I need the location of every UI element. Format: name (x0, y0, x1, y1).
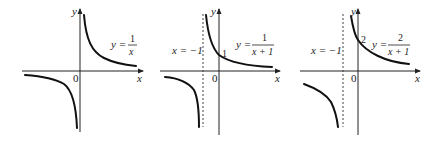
svg-text:x + 1: x + 1 (251, 46, 273, 57)
asymptote-label: x = −1 (171, 44, 203, 56)
curve-lower-branch (165, 77, 199, 127)
svg-text:y =: y = (235, 38, 251, 50)
svg-text:1: 1 (130, 33, 135, 44)
reciprocal-function-graphs: y x 0 y = 1 x y x 0 1 x = −1 y = 1 x + 1 (0, 0, 437, 145)
origin-label: 0 (351, 72, 357, 84)
svg-text:x: x (128, 46, 134, 57)
origin-label: 0 (212, 72, 218, 84)
x-axis-label: x (136, 72, 142, 84)
curve-upper-branch (84, 15, 136, 66)
asymptote-label: x = −1 (310, 44, 342, 56)
function-label: y = 1 x (110, 33, 137, 57)
graph-2: y x 0 1 x = −1 y = 1 x + 1 (160, 5, 280, 135)
y-axis-label: y (350, 5, 356, 17)
graph-1: y x 0 y = 1 x (22, 5, 143, 132)
y-intercept-label: 1 (222, 48, 227, 59)
svg-text:x + 1: x + 1 (387, 46, 409, 57)
svg-text:1: 1 (262, 32, 267, 43)
graph-3: y x 0 2 x = −1 y = 2 x + 1 (300, 5, 420, 135)
y-axis-label: y (210, 5, 216, 17)
function-label: y = 1 x + 1 (235, 32, 274, 57)
curve-lower-branch (25, 75, 77, 128)
svg-text:y =: y = (110, 38, 126, 50)
origin-label: 0 (73, 72, 79, 84)
function-label: y = 2 x + 1 (371, 32, 410, 57)
x-axis-label: x (274, 72, 280, 84)
x-axis-label: x (414, 72, 420, 84)
curve-lower-branch (304, 84, 338, 127)
y-intercept-label: 2 (361, 34, 366, 45)
svg-text:y =: y = (371, 38, 387, 50)
svg-text:2: 2 (398, 32, 403, 43)
y-axis-label: y (71, 5, 77, 17)
